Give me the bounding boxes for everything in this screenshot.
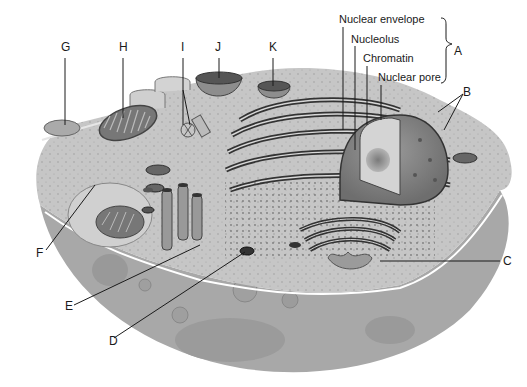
cell-illustration: [0, 0, 527, 387]
label-chromatin: Chromatin: [363, 53, 414, 64]
label-b: B: [463, 86, 471, 98]
label-j: J: [215, 41, 221, 53]
label-c: C: [503, 255, 512, 267]
label-nucleolus: Nucleolus: [351, 34, 399, 45]
label-g: G: [61, 41, 70, 53]
organelle-vesicle-right: [453, 153, 477, 163]
organelle-k-vesicle: [258, 81, 290, 98]
cell-diagram: Nuclear envelope Nucleolus Chromatin Nuc…: [0, 0, 527, 387]
label-nuclear-pore: Nuclear pore: [378, 72, 441, 83]
label-h: H: [119, 41, 128, 53]
label-nuclear-envelope: Nuclear envelope: [339, 14, 425, 25]
label-a: A: [454, 45, 462, 57]
label-e: E: [65, 300, 73, 312]
label-k: K: [269, 41, 277, 53]
organelle-g-vesicle: [44, 120, 80, 136]
label-d: D: [109, 335, 118, 347]
organelle-f-region: [68, 183, 152, 247]
label-i: I: [181, 41, 184, 53]
label-f: F: [36, 247, 43, 259]
